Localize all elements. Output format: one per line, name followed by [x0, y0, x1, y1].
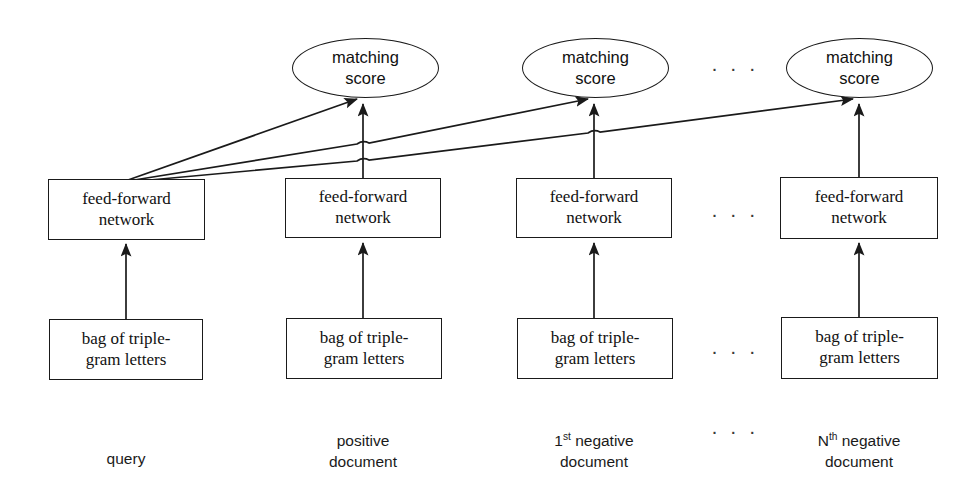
- column-label-prefix: N: [818, 432, 829, 449]
- matching-score-label: matching score: [562, 47, 629, 90]
- feed-forward-network-box-query[interactable]: feed-forward network: [48, 179, 205, 240]
- column-label-text: query: [107, 450, 146, 467]
- column-label-negative-1: 1st negative document: [514, 410, 674, 473]
- feed-forward-network-label: feed-forward network: [82, 189, 171, 230]
- dots-network-row: · · ·: [711, 202, 759, 226]
- column-label-text: negative document: [560, 432, 634, 470]
- feed-forward-network-box-negative-n[interactable]: feed-forward network: [780, 177, 938, 239]
- matching-score-label: matching score: [826, 47, 893, 90]
- ordinal-suffix: st: [563, 431, 571, 442]
- diagram-canvas: matching score matching score matching s…: [0, 0, 978, 483]
- dots-label-row: · · ·: [711, 419, 759, 443]
- bag-of-trigram-letters-label: bag of triple- gram letters: [320, 328, 409, 369]
- bag-of-trigram-letters-box-negative-n[interactable]: bag of triple- gram letters: [781, 317, 938, 379]
- bag-of-trigram-letters-label: bag of triple- gram letters: [82, 329, 171, 370]
- matching-score-label: matching score: [332, 47, 399, 90]
- feed-forward-network-box-negative-1[interactable]: feed-forward network: [516, 178, 672, 238]
- column-label-text: negative document: [825, 432, 900, 470]
- feed-forward-network-label: feed-forward network: [815, 187, 904, 228]
- column-label-negative-n: Nth negative document: [779, 410, 939, 473]
- matching-score-node-negative-n[interactable]: matching score: [786, 38, 933, 98]
- feed-forward-network-label: feed-forward network: [319, 187, 408, 228]
- dots-score-row: · · ·: [711, 56, 759, 80]
- bag-of-trigram-letters-box-positive[interactable]: bag of triple- gram letters: [286, 318, 442, 379]
- bag-of-trigram-letters-box-negative-1[interactable]: bag of triple- gram letters: [517, 318, 673, 379]
- arrow-query-to-score-negative-n: [128, 99, 853, 182]
- column-label-query: query: [46, 428, 206, 470]
- column-label-positive: positive document: [283, 410, 443, 473]
- column-label-prefix: 1: [554, 432, 563, 449]
- bag-of-trigram-letters-box-query[interactable]: bag of triple- gram letters: [49, 319, 203, 380]
- arrow-query-to-score-negative-1: [128, 99, 588, 181]
- dots-input-row: · · ·: [711, 339, 759, 363]
- feed-forward-network-label: feed-forward network: [550, 187, 639, 228]
- column-label-text: positive document: [329, 432, 397, 470]
- bag-of-trigram-letters-label: bag of triple- gram letters: [551, 328, 640, 369]
- arrow-query-to-score-positive: [128, 99, 357, 180]
- feed-forward-network-box-positive[interactable]: feed-forward network: [285, 178, 441, 238]
- bag-of-trigram-letters-label: bag of triple- gram letters: [815, 327, 904, 368]
- matching-score-node-negative-1[interactable]: matching score: [522, 38, 669, 98]
- matching-score-node-query-positive[interactable]: matching score: [292, 38, 439, 98]
